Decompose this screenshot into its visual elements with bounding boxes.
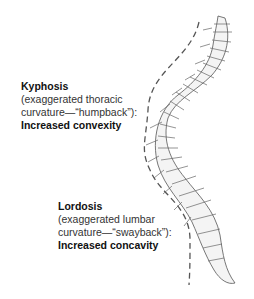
kyphosis-desc-2: curvature—“humpback”):	[21, 106, 137, 119]
lordosis-result: Increased concavity	[58, 239, 172, 252]
kyphosis-result: Increased convexity	[21, 119, 137, 132]
spine-illustration	[0, 0, 254, 299]
kyphosis-desc-1: (exaggerated thoracic	[21, 93, 137, 106]
lordosis-label: Lordosis (exaggerated lumbar curvature—“…	[58, 200, 172, 252]
kyphosis-label: Kyphosis (exaggerated thoracic curvature…	[21, 80, 137, 132]
lordosis-desc-1: (exaggerated lumbar	[58, 213, 172, 226]
kyphosis-title: Kyphosis	[21, 80, 137, 93]
lordosis-title: Lordosis	[58, 200, 172, 213]
lordosis-desc-2: curvature—“swayback”):	[58, 226, 172, 239]
